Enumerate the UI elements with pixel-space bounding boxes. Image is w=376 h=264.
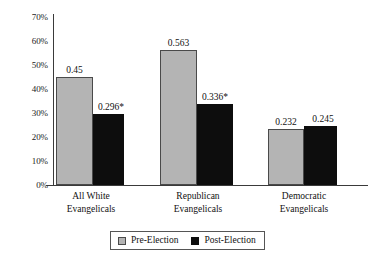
y-tick-60: 60% <box>4 37 48 46</box>
value-label-pre-republican: 0.563 <box>157 38 200 48</box>
y-axis-tick-labels: 70% 60% 50% 40% 30% 20% 10% 0% <box>0 0 48 264</box>
y-tick-20: 20% <box>4 133 48 142</box>
category-label-all-white-line2: Evangelicals <box>43 203 139 216</box>
plot-area: 0.45 0.296* 0.563 0.336* 0.232 0.245 <box>53 10 368 185</box>
value-label-post-all-white: 0.296* <box>89 102 133 112</box>
legend-entry-post-election: Post-Election <box>191 235 255 246</box>
category-label-republican: Republican Evangelicals <box>150 190 246 215</box>
category-label-all-white-line1: All White <box>43 190 139 203</box>
category-label-republican-line1: Republican <box>150 190 246 203</box>
legend-swatch-pre-election-icon <box>118 237 126 245</box>
value-label-pre-all-white: 0.45 <box>53 65 96 75</box>
bar-pre-democratic <box>268 129 304 185</box>
category-label-all-white: All White Evangelicals <box>43 190 139 215</box>
bar-post-republican <box>197 104 233 185</box>
y-tick-0: 0% <box>4 181 48 190</box>
legend-label-post-election: Post-Election <box>204 235 255 246</box>
y-tick-40: 40% <box>4 85 48 94</box>
chart-legend: Pre-Election Post-Election <box>110 231 265 250</box>
x-axis-line <box>46 185 368 186</box>
y-tick-70: 70% <box>4 13 48 22</box>
legend-label-pre-election: Pre-Election <box>131 235 178 246</box>
category-label-democratic-line2: Evangelicals <box>256 203 352 216</box>
category-label-democratic: Democratic Evangelicals <box>256 190 352 215</box>
legend-entry-pre-election: Pre-Election <box>118 235 178 246</box>
value-label-pre-democratic: 0.232 <box>265 117 307 127</box>
value-label-post-republican: 0.336* <box>193 92 237 102</box>
y-tick-30: 30% <box>4 109 48 118</box>
value-label-post-democratic: 0.245 <box>303 114 343 124</box>
y-tick-10: 10% <box>4 157 48 166</box>
category-label-democratic-line1: Democratic <box>256 190 352 203</box>
bar-pre-all-white <box>56 77 93 185</box>
grouped-bar-chart: 70% 60% 50% 40% 30% 20% 10% 0% 0.45 0.29… <box>0 0 376 264</box>
bar-post-democratic <box>304 126 337 185</box>
legend-swatch-post-election-icon <box>191 237 199 245</box>
y-tick-50: 50% <box>4 61 48 70</box>
category-label-republican-line2: Evangelicals <box>150 203 246 216</box>
bar-pre-republican <box>160 50 197 185</box>
bar-post-all-white <box>93 114 124 185</box>
